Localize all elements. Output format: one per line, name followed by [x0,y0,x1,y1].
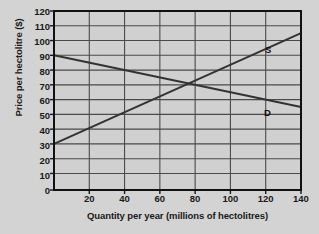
x-tick-label: 80 [175,194,215,204]
x-tick-label: 40 [105,194,145,204]
supply-curve-label: S [265,45,271,55]
x-tick-label: 20 [69,194,109,204]
x-tick-label: 100 [210,194,250,204]
x-tick-label: 120 [246,194,286,204]
x-tick-label: 60 [140,194,180,204]
demand-curve-label: D [264,108,271,118]
price-quantity-supply-demand-chart: Price per hectolitre ($) 120 110 100 90 … [0,0,319,234]
x-axis-title: Quantity per year (millions of hectolitr… [54,210,301,221]
plot-background [54,11,301,190]
x-tick-label: 140 [281,194,319,204]
